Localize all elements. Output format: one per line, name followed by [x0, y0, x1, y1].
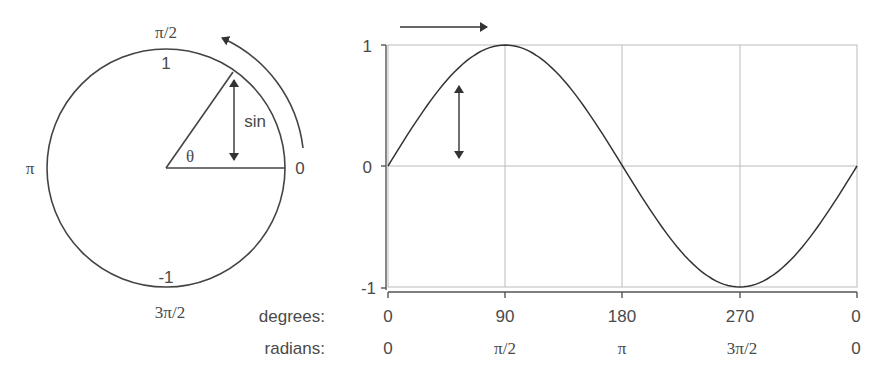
degrees-label: degrees: [259, 307, 325, 326]
radians-label: radians: [265, 339, 325, 358]
sine-diagram: π/2 1 π 0 -1 3π/2 θ sin 1 0 -1 [0, 0, 882, 376]
x-tick-deg-270: 270 [726, 307, 754, 326]
x-tick-deg-180: 180 [608, 307, 636, 326]
circle-label-left-angle: π [26, 159, 35, 178]
x-tick-deg-0: 0 [383, 307, 392, 326]
circle-label-bottom-value: -1 [158, 268, 173, 287]
x-tick-deg-90: 90 [496, 307, 515, 326]
circle-label-top-angle: π/2 [155, 23, 177, 42]
x-tick-rad-2pi: 0 [851, 339, 860, 358]
x-tick-rad-pi: π [618, 339, 627, 358]
sine-chart: 1 0 -1 degrees: radians: 0 90 180 270 0 … [259, 27, 861, 358]
angle-line [166, 72, 233, 168]
theta-label: θ [186, 147, 194, 166]
circle-label-right-angle: 0 [295, 159, 304, 178]
y-tick-0: 0 [363, 158, 372, 177]
y-tick-neg1: -1 [361, 279, 376, 298]
unit-circle: π/2 1 π 0 -1 3π/2 θ sin [26, 23, 305, 322]
x-tick-rad-0: 0 [383, 339, 392, 358]
x-tick-rad-3half-pi: 3π/2 [727, 339, 757, 358]
x-tick-rad-half-pi: π/2 [494, 339, 516, 358]
circle-label-top-value: 1 [161, 54, 170, 73]
x-tick-deg-360: 0 [851, 307, 860, 326]
sin-label: sin [244, 112, 266, 131]
y-tick-1: 1 [363, 37, 372, 56]
circle-label-bottom-angle: 3π/2 [155, 303, 185, 322]
